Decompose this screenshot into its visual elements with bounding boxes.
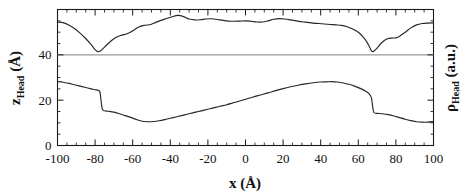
x-tick-label: -60 [124,151,141,166]
y2-axis-title-group: ρHead (a.u.) [442,44,461,112]
figure-container: -100-80-60-40-20020406080100 02040 x (Å)… [0,0,469,196]
x-tick-label: 60 [352,151,365,166]
x-tick-label: 80 [389,151,402,166]
x-axis-title: x (Å) [229,175,261,192]
curve-rho_Head [58,15,434,51]
x-tick-label: 40 [314,151,327,166]
x-tick-label: 0 [242,151,249,166]
y-axis-title-subscript: Head [15,75,26,98]
y2-axis-title-unit: (a.u.) [442,44,459,81]
y-tick-label: 20 [39,93,52,108]
y2-axis-title: ρHead (a.u.) [442,44,461,112]
y-axis-title-group: zHead (Å) [7,51,26,105]
x-tick-label: -80 [86,151,103,166]
chart-svg: -100-80-60-40-20020406080100 02040 x (Å)… [0,0,469,196]
y-tick-label: 0 [45,138,52,153]
y-axis-title-unit: (Å) [7,51,24,76]
x-tick-label: -40 [162,151,179,166]
x-axis-title-group: x (Å) [229,175,261,192]
data-curves-group [58,15,434,122]
y-axis-title: zHead (Å) [7,51,26,105]
x-tick-label: 100 [424,151,444,166]
y2-axis-title-main: ρ [442,104,458,112]
plot-frame-group [58,10,434,146]
curve-z_Head [58,82,434,123]
x-tick-label: 20 [277,151,290,166]
x-tick-labels-group: -100-80-60-40-20020406080100 [46,151,444,166]
axis-ticks-group [58,10,434,146]
y-tick-label: 40 [39,47,52,62]
plot-frame [58,10,434,146]
y2-axis-title-subscript: Head [450,81,461,104]
y-tick-labels-group: 02040 [39,47,52,153]
x-tick-label: -20 [199,151,216,166]
